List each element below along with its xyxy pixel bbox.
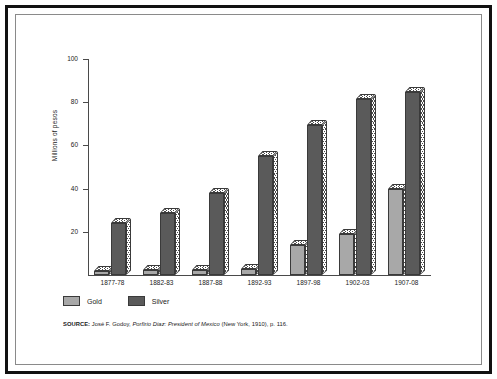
y-axis-tick-label-80: 80 bbox=[52, 98, 78, 105]
source-prefix: SOURCE: bbox=[63, 321, 90, 327]
bar-face bbox=[339, 234, 354, 275]
bar-face bbox=[192, 270, 207, 275]
source-author: José F. Godoy, bbox=[92, 321, 131, 327]
figure-page: Millions of pesos 20406080100 1877-78188… bbox=[0, 0, 497, 379]
y-axis-line bbox=[88, 59, 89, 276]
x-axis-label-1887-88: 1887-88 bbox=[186, 279, 235, 286]
chart-legend: Gold Silver bbox=[63, 296, 169, 306]
legend-swatch-gold bbox=[63, 296, 80, 306]
bar-face bbox=[405, 92, 420, 275]
bar-gold-1892-93 bbox=[241, 269, 256, 275]
legend-swatch-silver bbox=[128, 296, 145, 306]
bar-gold-1907-08 bbox=[388, 189, 403, 275]
bar-silver-1897-98 bbox=[307, 125, 322, 275]
source-publication: (New York, 1910), p. 116. bbox=[221, 321, 287, 327]
bar-side-hatch bbox=[273, 152, 278, 275]
y-axis-tick-60 bbox=[83, 145, 89, 146]
x-axis-label-1907-08: 1907-08 bbox=[382, 279, 431, 286]
bar-side-hatch bbox=[420, 88, 425, 275]
bar-face bbox=[209, 193, 224, 275]
source-title: Porfirio Diaz: President of Mexico bbox=[132, 321, 219, 327]
bar-face bbox=[356, 99, 371, 275]
bar-face bbox=[258, 156, 273, 275]
bar-silver-1882-83 bbox=[160, 213, 175, 275]
y-axis-tick-label-40: 40 bbox=[52, 185, 78, 192]
legend-item-gold: Gold bbox=[63, 296, 102, 306]
bar-silver-1877-78 bbox=[111, 223, 126, 275]
y-axis-tick-label-100: 100 bbox=[52, 55, 78, 62]
legend-label-silver: Silver bbox=[152, 298, 170, 305]
bar-gold-1897-98 bbox=[290, 245, 305, 275]
chart-plot-area: Millions of pesos 20406080100 1877-78188… bbox=[0, 0, 497, 379]
bar-side-hatch bbox=[126, 219, 131, 275]
x-axis-label-1877-78: 1877-78 bbox=[88, 279, 137, 286]
y-axis-tick-label-60: 60 bbox=[52, 141, 78, 148]
bar-face bbox=[388, 189, 403, 275]
bar-face bbox=[111, 223, 126, 275]
y-axis-tick-100 bbox=[83, 59, 89, 60]
x-axis-label-1892-93: 1892-93 bbox=[235, 279, 284, 286]
legend-item-silver: Silver bbox=[128, 296, 170, 306]
x-axis-label-1902-03: 1902-03 bbox=[333, 279, 382, 286]
bar-gold-1887-88 bbox=[192, 270, 207, 275]
bar-gold-1902-03 bbox=[339, 234, 354, 275]
bar-side-hatch bbox=[224, 188, 229, 275]
bar-gold-1882-83 bbox=[143, 270, 158, 275]
bar-face bbox=[160, 213, 175, 275]
y-axis-tick-40 bbox=[83, 189, 89, 190]
y-axis-tick-80 bbox=[83, 102, 89, 103]
bar-side-hatch bbox=[175, 209, 180, 275]
bar-face bbox=[290, 245, 305, 275]
source-note: SOURCE: José F. Godoy, Porfirio Diaz: Pr… bbox=[63, 321, 288, 327]
bar-silver-1892-93 bbox=[258, 156, 273, 275]
x-axis-label-1882-83: 1882-83 bbox=[137, 279, 186, 286]
bar-face bbox=[94, 271, 109, 275]
bar-silver-1887-88 bbox=[209, 193, 224, 275]
y-axis-title: Millions of pesos bbox=[51, 76, 58, 196]
bar-face bbox=[307, 125, 322, 275]
bar-side-hatch bbox=[322, 120, 327, 275]
x-axis-line bbox=[88, 275, 431, 276]
x-axis-label-1897-98: 1897-98 bbox=[284, 279, 333, 286]
bar-side-hatch bbox=[371, 94, 376, 275]
bar-face bbox=[143, 270, 158, 275]
y-axis-tick-20 bbox=[83, 232, 89, 233]
bar-gold-1877-78 bbox=[94, 271, 109, 275]
bar-silver-1902-03 bbox=[356, 99, 371, 275]
bar-silver-1907-08 bbox=[405, 92, 420, 275]
bar-face bbox=[241, 269, 256, 275]
y-axis-tick-label-20: 20 bbox=[52, 228, 78, 235]
legend-label-gold: Gold bbox=[87, 298, 102, 305]
